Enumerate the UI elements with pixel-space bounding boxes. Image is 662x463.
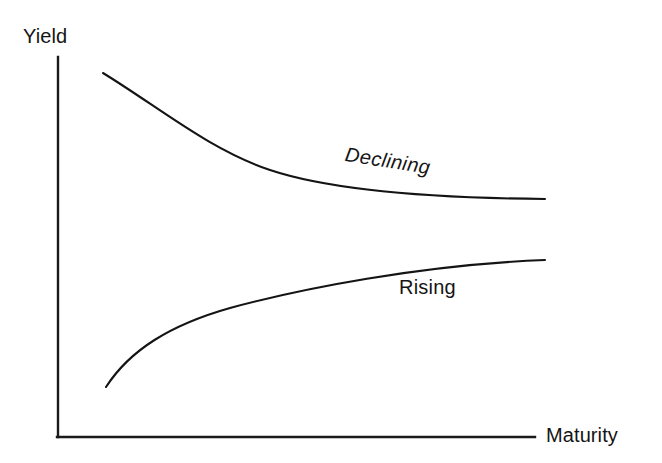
- chart-canvas: [0, 0, 662, 463]
- declining-yield-curve: [103, 73, 545, 199]
- yield-curve-figure: Yield Maturity Declining Rising: [0, 0, 662, 463]
- axes-group: [57, 57, 535, 437]
- x-axis-label: Maturity: [546, 425, 618, 445]
- rising-curve-label: Rising: [399, 277, 456, 297]
- y-axis-label: Yield: [23, 26, 67, 46]
- curves-group: [103, 73, 545, 387]
- rising-yield-curve: [106, 260, 545, 387]
